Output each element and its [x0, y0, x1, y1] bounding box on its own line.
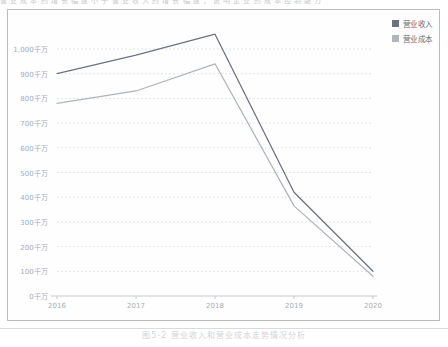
legend-label-cost: 营业成本	[403, 33, 432, 44]
x-axis-tick-2018: 2018	[206, 302, 224, 310]
x-axis-tick-2016: 2016	[48, 302, 66, 310]
figure-caption: 图5-2 营业收入和营业成本走势情况分析	[0, 330, 448, 344]
x-axis-tick-2020: 2020	[364, 302, 382, 310]
chart-legend: 营业收入 营业成本	[392, 18, 432, 44]
page-cutoff-text: 营 业 成 本 的 增 长 幅 度 小 于 营 业 收 入 的 增 长 幅 度 …	[0, 0, 448, 7]
x-axis-tick-labels: 20162017201820192020	[8, 10, 441, 322]
x-axis-tick-2017: 2017	[127, 302, 145, 310]
figure-frame: 1,000千万900千万800千万700千万600千万500千万400千万300…	[7, 9, 440, 321]
chart-plot-area: 1,000千万900千万800千万700千万600千万500千万400千万300…	[8, 10, 441, 322]
legend-swatch-revenue	[392, 20, 399, 27]
x-axis-tick-2019: 2019	[285, 302, 303, 310]
legend-swatch-cost	[392, 35, 399, 42]
figure-caption-text: 图5-2 营业收入和营业成本走势情况分析	[0, 330, 448, 340]
legend-item-cost[interactable]: 营业成本	[392, 33, 432, 44]
legend-item-revenue[interactable]: 营业收入	[392, 18, 432, 29]
legend-label-revenue: 营业收入	[403, 18, 432, 29]
page-cutoff-text-line: 营 业 成 本 的 增 长 幅 度 小 于 营 业 收 入 的 增 长 幅 度 …	[0, 0, 448, 4]
caption-divider	[0, 328, 448, 329]
